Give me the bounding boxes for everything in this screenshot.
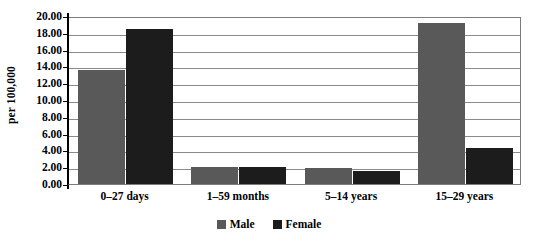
- legend-swatch-icon: [217, 220, 226, 229]
- x-axis-category-label: 1–59 months: [181, 190, 294, 202]
- bar-group: [182, 18, 295, 184]
- x-axis-category-label: 15–29 years: [408, 190, 521, 202]
- y-tick-label: 6.00: [20, 129, 62, 141]
- y-tick-label: 2.00: [20, 162, 62, 174]
- y-tick-label: 8.00: [20, 112, 62, 124]
- y-tick-mark: [63, 67, 69, 68]
- bar-female[interactable]: [126, 29, 173, 184]
- legend-item-male[interactable]: Male: [217, 218, 255, 230]
- y-tick-mark: [63, 84, 69, 85]
- x-axis-category-label: 5–14 years: [295, 190, 408, 202]
- x-axis-category-labels: 0–27 days1–59 months5–14 years15–29 year…: [68, 190, 521, 212]
- chart-legend: MaleFemale: [0, 218, 538, 230]
- y-tick-label: 18.00: [20, 28, 62, 40]
- bar-male[interactable]: [191, 167, 238, 184]
- y-tick-mark: [63, 118, 69, 119]
- bar-male[interactable]: [418, 23, 465, 184]
- y-tick-label: 10.00: [20, 95, 62, 107]
- y-tick-mark: [63, 34, 69, 35]
- y-axis-title-text: per 100,000: [5, 66, 17, 124]
- legend-label: Female: [286, 218, 322, 230]
- y-tick-label: 14.00: [20, 62, 62, 74]
- bar-group: [409, 18, 522, 184]
- bar-group: [296, 18, 409, 184]
- y-tick-label: 16.00: [20, 45, 62, 57]
- y-axis-tick-labels: 0.002.004.006.008.0010.0012.0014.0016.00…: [20, 17, 62, 185]
- y-tick-mark: [63, 185, 69, 186]
- x-axis-category-label: 0–27 days: [68, 190, 181, 202]
- y-tick-mark: [63, 51, 69, 52]
- bar-chart: per 100,000 0.002.004.006.008.0010.0012.…: [0, 0, 538, 246]
- y-axis-title: per 100,000: [0, 0, 22, 190]
- legend-item-female[interactable]: Female: [273, 218, 322, 230]
- bar-female[interactable]: [239, 167, 286, 184]
- y-tick-mark: [63, 17, 69, 18]
- y-tick-mark: [63, 135, 69, 136]
- y-tick-mark: [63, 101, 69, 102]
- legend-swatch-icon: [273, 220, 282, 229]
- y-tick-mark: [63, 168, 69, 169]
- y-tick-label: 0.00: [20, 179, 62, 191]
- legend-label: Male: [230, 218, 255, 230]
- bar-group: [69, 18, 182, 184]
- bar-female[interactable]: [466, 148, 513, 184]
- bar-male[interactable]: [305, 168, 352, 184]
- y-tick-label: 12.00: [20, 78, 62, 90]
- bar-female[interactable]: [353, 171, 400, 184]
- plot-area: [68, 17, 521, 185]
- y-tick-mark: [63, 151, 69, 152]
- y-tick-label: 20.00: [20, 11, 62, 23]
- bar-male[interactable]: [78, 70, 125, 184]
- y-tick-label: 4.00: [20, 146, 62, 158]
